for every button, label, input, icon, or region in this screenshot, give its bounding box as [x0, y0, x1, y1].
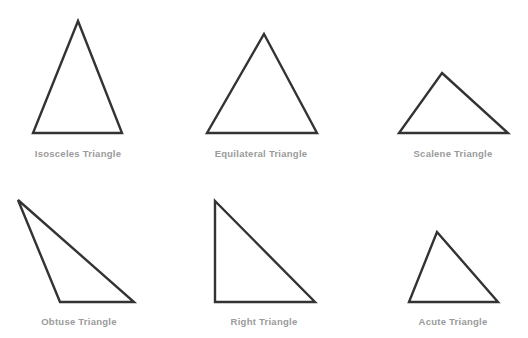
scalene-triangle-label: Scalene Triangle: [414, 148, 493, 159]
obtuse-triangle-shape: [18, 200, 134, 302]
scalene-triangle-shape: [399, 73, 508, 133]
equilateral-triangle-label: Equilateral Triangle: [215, 148, 308, 159]
triangle-types-figure: Isosceles Triangle Equilateral Triangle …: [0, 0, 528, 338]
obtuse-triangle-label: Obtuse Triangle: [41, 316, 117, 327]
isosceles-triangle-label: Isosceles Triangle: [35, 148, 121, 159]
acute-triangle-label: Acute Triangle: [419, 316, 488, 327]
acute-triangle-shape: [409, 232, 498, 302]
equilateral-triangle-shape: [207, 34, 317, 133]
right-triangle-shape: [215, 201, 315, 302]
triangle-diagram-canvas: [0, 0, 528, 338]
isosceles-triangle-shape: [33, 21, 122, 133]
right-triangle-label: Right Triangle: [231, 316, 298, 327]
